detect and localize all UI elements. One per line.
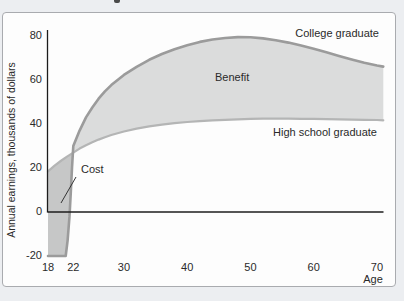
- y-tick-label-0: 0: [18, 204, 42, 218]
- x-tick-label-50: 50: [237, 260, 263, 274]
- y-tick-label-40: 40: [18, 116, 42, 130]
- x-axis-title: Age: [353, 273, 393, 286]
- x-tick-label-30: 30: [111, 260, 137, 274]
- y-tick-label-80: 80: [18, 28, 42, 42]
- benefit-region-fill: [72, 37, 383, 168]
- x-tick-label-40: 40: [174, 260, 200, 274]
- high-school-graduate-curve-label: High school graduate: [270, 126, 377, 139]
- x-tick-label-70: 70: [364, 260, 390, 274]
- x-tick-label-60: 60: [301, 260, 327, 274]
- y-tick-label-60: 60: [18, 72, 42, 86]
- benefit-region-label: Benefit: [215, 71, 249, 84]
- y-axis-title: Annual earnings, thousands of dollars: [4, 50, 18, 250]
- cost-region-label: Cost: [81, 163, 104, 176]
- x-tick-label-18: 18: [35, 260, 61, 274]
- y-tick-label-20: 20: [18, 160, 42, 174]
- college-graduate-curve-label: College graduate: [283, 27, 379, 40]
- chart-canvas: [0, 0, 404, 301]
- x-tick-label-22: 22: [60, 260, 86, 274]
- figure-page: Annual earnings, thousands of dollars Co…: [0, 0, 404, 301]
